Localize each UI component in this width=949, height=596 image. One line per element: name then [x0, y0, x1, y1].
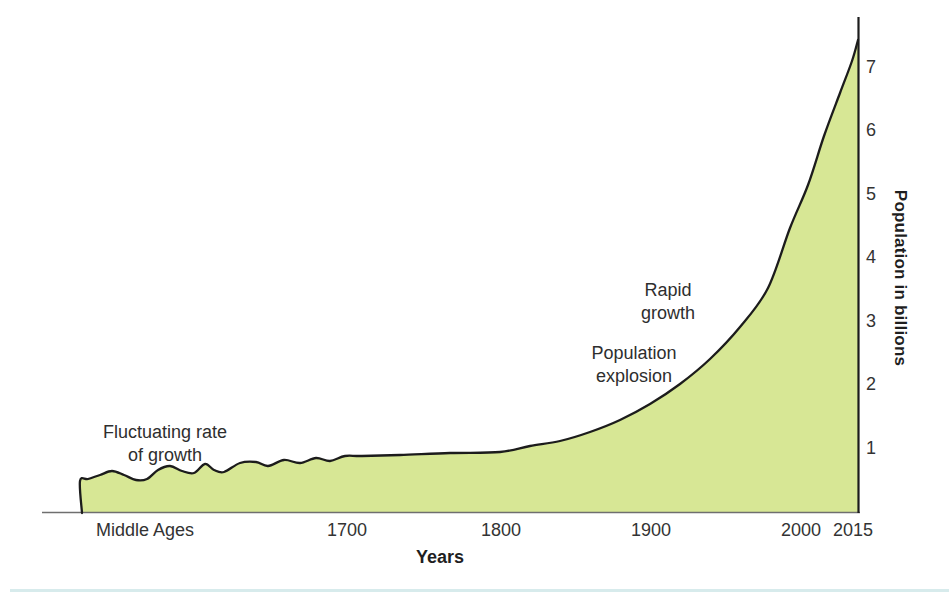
annotation-line: of growth — [103, 444, 227, 467]
y-tick-7: 7 — [866, 56, 876, 78]
x-tick-middle-ages: Middle Ages — [96, 519, 194, 541]
y-axis-title: Population in billions — [890, 190, 910, 366]
y-tick-1: 1 — [866, 437, 876, 459]
annotation-line: Rapid — [641, 279, 695, 302]
y-tick-6: 6 — [866, 119, 876, 141]
x-tick-1800: 1800 — [481, 519, 521, 541]
population-growth-chart: 1234567 Middle Ages17001800190020002015 … — [0, 0, 949, 596]
annotation-fluctuating-rate: Fluctuating rateof growth — [103, 421, 227, 467]
annotation-rapid-growth: Rapidgrowth — [641, 279, 695, 325]
x-tick-1700: 1700 — [327, 519, 367, 541]
annotation-population-explosion: Populationexplosion — [591, 342, 676, 388]
y-tick-5: 5 — [866, 183, 876, 205]
page-edge-rule — [10, 589, 949, 592]
x-axis-title: Years — [416, 547, 464, 568]
annotation-line: Fluctuating rate — [103, 421, 227, 444]
y-tick-2: 2 — [866, 373, 876, 395]
x-tick-2015: 2015 — [833, 519, 873, 541]
annotation-line: growth — [641, 302, 695, 325]
y-tick-3: 3 — [866, 310, 876, 332]
chart-svg — [0, 0, 949, 596]
annotation-line: Population — [591, 342, 676, 365]
x-tick-2000: 2000 — [781, 519, 821, 541]
annotation-line: explosion — [591, 365, 676, 388]
y-tick-4: 4 — [866, 246, 876, 268]
x-tick-1900: 1900 — [631, 519, 671, 541]
